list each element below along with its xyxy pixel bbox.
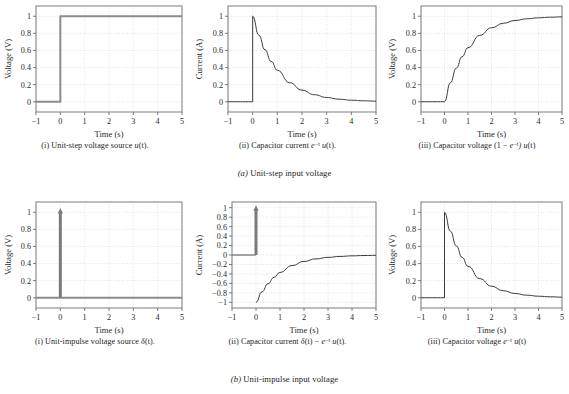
- subcaption-middle: (t) −: [305, 337, 322, 346]
- svg-text:4: 4: [536, 117, 540, 126]
- svg-text:−1: −1: [417, 313, 426, 322]
- svg-text:0.2: 0.2: [21, 81, 31, 90]
- panel-a-i: 00.20.40.60.81−1012345Time (s)Voltage (V…: [0, 0, 190, 151]
- svg-text:0.6: 0.6: [213, 46, 223, 55]
- subcaption-text: (ii) Capacitor current: [239, 141, 311, 150]
- svg-text:0: 0: [219, 98, 223, 107]
- svg-text:1: 1: [27, 12, 31, 21]
- svg-text:1: 1: [412, 12, 416, 21]
- svg-text:5: 5: [374, 117, 378, 126]
- svg-text:0.2: 0.2: [406, 81, 416, 90]
- svg-text:0: 0: [223, 251, 227, 260]
- subcaption-a-iii: (iii) Capacitor voltage (1 − e−t) u(t): [385, 141, 569, 151]
- svg-text:1: 1: [27, 208, 31, 217]
- svg-text:0: 0: [58, 117, 62, 126]
- plot-a-i: 00.20.40.60.81−1012345Time (s)Voltage (V…: [0, 0, 190, 140]
- svg-text:1: 1: [83, 313, 87, 322]
- subcaption-a-ii: (ii) Capacitor current e−t u(t).: [190, 141, 385, 151]
- svg-text:4: 4: [349, 117, 353, 126]
- svg-text:2: 2: [489, 313, 493, 322]
- subcaption-a-i: (i) Unit-step voltage source u(t).: [0, 141, 190, 151]
- svg-text:1: 1: [466, 313, 470, 322]
- svg-text:Voltage (V): Voltage (V): [3, 235, 13, 275]
- svg-text:0.2: 0.2: [406, 277, 416, 286]
- subcaption-text: (ii) Capacitor current: [229, 337, 301, 346]
- svg-text:5: 5: [560, 313, 564, 322]
- subcaption-text: (i) Unit-impulse voltage source: [35, 337, 141, 346]
- svg-text:1: 1: [466, 117, 470, 126]
- svg-text:−1: −1: [218, 298, 227, 307]
- svg-text:0.8: 0.8: [406, 29, 416, 38]
- svg-text:0.6: 0.6: [21, 242, 31, 251]
- svg-text:1: 1: [275, 117, 279, 126]
- svg-text:Current (A): Current (A): [194, 235, 204, 275]
- plot-b-i: 00.20.40.60.81−1012345Time (s)Voltage (V…: [0, 196, 190, 336]
- svg-text:4: 4: [156, 313, 160, 322]
- svg-text:Time (s): Time (s): [477, 129, 506, 139]
- group-caption-text-a: Unit-step input voltage: [250, 168, 331, 178]
- figure-row-a: 00.20.40.60.81−1012345Time (s)Voltage (V…: [0, 0, 569, 151]
- panel-b-iii: 00.20.40.60.81−1012345Time (s)Voltage (V…: [385, 196, 569, 347]
- plot-svg-a-i: 00.20.40.60.81−1012345Time (s)Voltage (V…: [0, 0, 190, 140]
- svg-text:0.4: 0.4: [406, 63, 416, 72]
- figure-row-b: 00.20.40.60.81−1012345Time (s)Voltage (V…: [0, 196, 569, 347]
- svg-text:0.2: 0.2: [213, 81, 223, 90]
- svg-text:0.6: 0.6: [21, 46, 31, 55]
- subcaption-b-iii: (iii) Capacitor voltage e−t u(t): [385, 337, 569, 347]
- subcaption-text: (i) Unit-step voltage source: [41, 141, 134, 150]
- svg-text:0: 0: [442, 117, 446, 126]
- svg-text:0: 0: [412, 294, 416, 303]
- svg-text:4: 4: [536, 313, 540, 322]
- svg-text:Voltage (V): Voltage (V): [3, 39, 13, 79]
- svg-text:0.6: 0.6: [406, 46, 416, 55]
- svg-text:−0.4: −0.4: [212, 270, 227, 279]
- plot-svg-b-ii: −1−0.8−0.6−0.4−0.200.20.40.60.81−1012345…: [190, 196, 385, 336]
- svg-text:0.8: 0.8: [21, 225, 31, 234]
- svg-text:4: 4: [350, 313, 354, 322]
- svg-text:0: 0: [254, 313, 258, 322]
- svg-text:2: 2: [302, 313, 306, 322]
- svg-text:0.4: 0.4: [213, 63, 223, 72]
- plot-svg-b-iii: 00.20.40.60.81−1012345Time (s)Voltage (V…: [385, 196, 569, 336]
- svg-text:−1: −1: [32, 117, 41, 126]
- plot-a-ii: 00.20.40.60.81−1012345Time (s)Current (A…: [190, 0, 385, 140]
- svg-text:3: 3: [326, 313, 330, 322]
- svg-text:4: 4: [156, 117, 160, 126]
- svg-text:Voltage (V): Voltage (V): [387, 39, 397, 79]
- svg-text:0.6: 0.6: [217, 223, 227, 232]
- group-label-b: (b): [231, 374, 241, 384]
- svg-text:0.2: 0.2: [21, 277, 31, 286]
- svg-text:2: 2: [107, 117, 111, 126]
- subcaption-suffix: (t).: [139, 141, 149, 150]
- subcaption-suffix: (t).: [145, 337, 155, 346]
- svg-text:−1: −1: [32, 313, 41, 322]
- svg-text:Time (s): Time (s): [287, 129, 316, 139]
- svg-text:0: 0: [27, 98, 31, 107]
- figure-container: 00.20.40.60.81−1012345Time (s)Voltage (V…: [0, 0, 569, 394]
- plot-b-ii: −1−0.8−0.6−0.4−0.200.20.40.60.81−1012345…: [190, 196, 385, 336]
- plot-b-iii: 00.20.40.60.81−1012345Time (s)Voltage (V…: [385, 196, 569, 336]
- svg-text:5: 5: [180, 117, 184, 126]
- panel-a-ii: 00.20.40.60.81−1012345Time (s)Current (A…: [190, 0, 385, 151]
- svg-text:2: 2: [107, 313, 111, 322]
- group-caption-b: (b) Unit-impulse input voltage: [0, 374, 569, 384]
- panel-b-i: 00.20.40.60.81−1012345Time (s)Voltage (V…: [0, 196, 190, 347]
- subcaption-b-i: (i) Unit-impulse voltage source δ(t).: [0, 337, 190, 347]
- svg-text:0: 0: [58, 313, 62, 322]
- svg-text:0.8: 0.8: [21, 29, 31, 38]
- svg-text:1: 1: [83, 117, 87, 126]
- subcaption-b-ii: (ii) Capacitor current δ(t) − e−t u(t).: [190, 337, 385, 347]
- svg-text:Time (s): Time (s): [289, 325, 318, 335]
- svg-text:−0.8: −0.8: [212, 289, 227, 298]
- plot-a-iii: 00.20.40.60.81−1012345Time (s)Voltage (V…: [385, 0, 569, 140]
- svg-text:1: 1: [219, 12, 223, 21]
- svg-text:0: 0: [412, 98, 416, 107]
- svg-text:3: 3: [131, 117, 135, 126]
- svg-text:1: 1: [278, 313, 282, 322]
- svg-text:2: 2: [300, 117, 304, 126]
- group-label-a: (a): [238, 168, 248, 178]
- subcaption-suffix: (t): [518, 337, 526, 346]
- subcaption-symbol2: ) u: [519, 141, 528, 150]
- subcaption-suffix: (t).: [326, 141, 336, 150]
- svg-text:0: 0: [27, 294, 31, 303]
